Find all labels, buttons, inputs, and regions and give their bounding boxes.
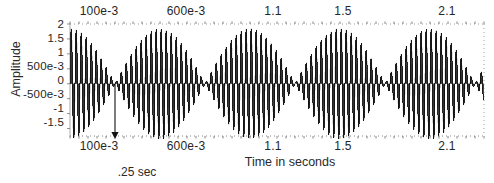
beat-period-annotation-label: .25 sec	[97, 165, 177, 179]
y-tick-label: -500e-3	[4, 88, 64, 100]
y-tick-label: 2	[8, 18, 64, 30]
x-axis-title: Time in seconds	[220, 155, 360, 169]
x-tick-label-bottom: 600e-3	[146, 139, 226, 153]
y-tick-label: 0	[8, 74, 64, 86]
y-tick-label: 500e-3	[8, 60, 64, 72]
x-tick-label-bottom: 2.1	[407, 139, 487, 153]
x-tick-label-top: 1.5	[303, 4, 383, 18]
x-tick-label-bottom: 1.5	[303, 139, 383, 153]
x-tick-label-top: 100e-3	[59, 4, 139, 18]
x-tick-label-top: 1.1	[233, 4, 313, 18]
y-tick-label: -1.5	[8, 116, 64, 128]
x-tick-label-top: 600e-3	[146, 4, 226, 18]
x-tick-label-bottom: 1.1	[233, 139, 313, 153]
y-tick-label: -1	[8, 102, 64, 114]
waveform-figure: Amplitude Time in seconds .25 sec 2 1.5 …	[0, 0, 494, 183]
y-tick-label: 1.5	[8, 32, 64, 44]
x-tick-label-top: 2.1	[407, 4, 487, 18]
waveform-trace	[70, 29, 484, 139]
beat-period-arrow	[111, 84, 118, 139]
x-tick-label-bottom: 100e-3	[59, 139, 139, 153]
y-tick-label: 1	[8, 46, 64, 58]
